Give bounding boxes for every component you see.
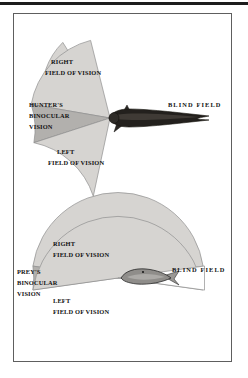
hunter-binocular-label-line3: VISION — [29, 123, 53, 131]
hunter-right-field-label-line1: RIGHT — [51, 58, 73, 66]
prey-binocular-label-line3: VISION — [17, 290, 41, 298]
hunter-right-field-label-line2: FIELD OF VISION — [45, 69, 101, 77]
prey-blind-field-label: BLIND FIELD — [172, 266, 225, 274]
fields-of-vision-figure — [13, 13, 232, 362]
prey-left-field-label-line2: FIELD OF VISION — [53, 308, 109, 316]
hunter-blind-field-label: BLIND FIELD — [168, 101, 221, 109]
hunter-binocular-label-line2: BINOCULAR — [29, 112, 69, 120]
hunter-binocular-label-line1: HUNTER'S — [29, 101, 63, 109]
prey-right-field-label-line2: FIELD OF VISION — [53, 251, 109, 259]
prey-binocular-label-line1: PREY'S — [17, 268, 41, 276]
hunter-left-field-label-line2: FIELD OF VISION — [48, 159, 104, 167]
top-rule-divider — [0, 2, 248, 5]
prey-right-field-label-line1: RIGHT — [53, 240, 75, 248]
hunter-left-field-label-line1: LEFT — [57, 148, 74, 156]
figure-page: RIGHT FIELD OF VISION HUNTER'S BINOCULAR… — [0, 0, 248, 378]
prey-binocular-label-line2: BINOCULAR — [17, 279, 57, 287]
hunter-head — [109, 113, 119, 124]
prey-eye — [142, 271, 144, 273]
prey-left-field-label-line1: LEFT — [53, 297, 70, 305]
